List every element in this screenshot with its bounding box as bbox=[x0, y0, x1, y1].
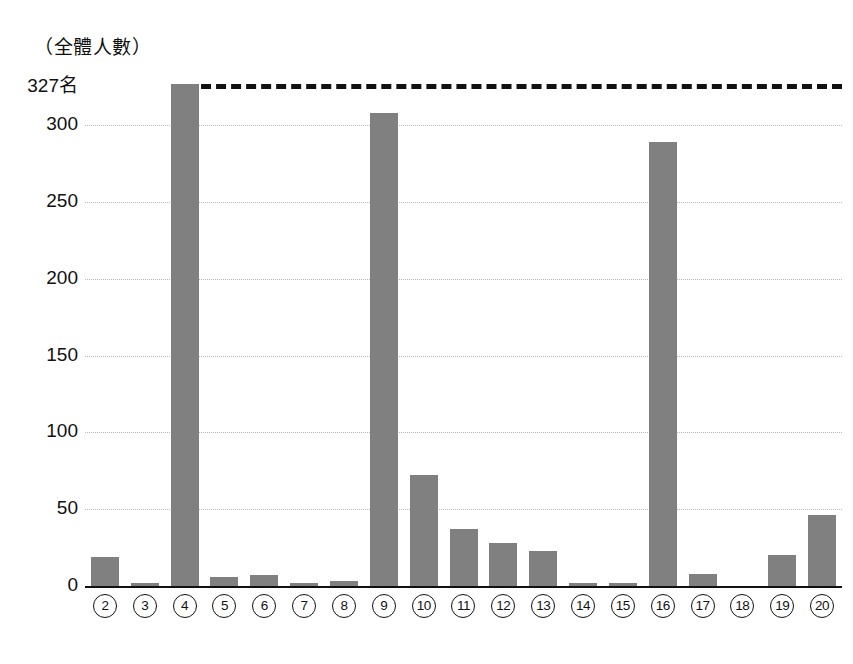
bar bbox=[489, 543, 517, 586]
x-tick-circled-number: 5 bbox=[212, 594, 236, 618]
x-tick-label: 9 bbox=[364, 594, 404, 618]
x-tick-label: 19 bbox=[762, 594, 802, 618]
x-tick-circled-number: 10 bbox=[412, 594, 436, 618]
bar bbox=[210, 577, 238, 586]
x-tick-circled-number: 20 bbox=[810, 594, 834, 618]
x-tick-label: 2 bbox=[85, 594, 125, 618]
x-tick-circled-number: 9 bbox=[372, 594, 396, 618]
x-tick-label: 8 bbox=[324, 594, 364, 618]
x-tick-label: 7 bbox=[284, 594, 324, 618]
x-tick-circled-number: 19 bbox=[770, 594, 794, 618]
x-tick-circled-number: 11 bbox=[451, 594, 475, 618]
y-tick-label: 100 bbox=[8, 420, 78, 442]
x-tick-circled-number: 3 bbox=[133, 594, 157, 618]
x-tick-circled-number: 7 bbox=[292, 594, 316, 618]
x-tick-label: 13 bbox=[523, 594, 563, 618]
bars-layer bbox=[85, 0, 842, 586]
y-tick-label: 0 bbox=[8, 574, 78, 596]
x-tick-label: 15 bbox=[603, 594, 643, 618]
bar bbox=[768, 555, 796, 586]
x-tick-circled-number: 15 bbox=[611, 594, 635, 618]
x-tick-circled-number: 4 bbox=[173, 594, 197, 618]
y-tick-label: 200 bbox=[8, 267, 78, 289]
x-tick-label: 14 bbox=[563, 594, 603, 618]
x-tick-circled-number: 12 bbox=[491, 594, 515, 618]
bar-chart: （全體人數） 050100150200250300 327名 234567891… bbox=[0, 0, 853, 664]
y-tick-label: 300 bbox=[8, 113, 78, 135]
x-axis-tick-labels: 234567891011121314151617181920 bbox=[85, 594, 842, 634]
x-tick-label: 3 bbox=[125, 594, 165, 618]
x-axis-line bbox=[85, 586, 842, 588]
x-tick-label: 11 bbox=[444, 594, 484, 618]
bar bbox=[250, 575, 278, 586]
x-tick-label: 16 bbox=[643, 594, 683, 618]
x-tick-circled-number: 17 bbox=[691, 594, 715, 618]
bar bbox=[370, 113, 398, 586]
x-tick-label: 17 bbox=[683, 594, 723, 618]
bar bbox=[91, 557, 119, 586]
y-tick-label: 250 bbox=[8, 190, 78, 212]
x-tick-label: 5 bbox=[205, 594, 245, 618]
bar bbox=[808, 515, 836, 586]
x-tick-circled-number: 16 bbox=[651, 594, 675, 618]
top-reference-label: 327名 bbox=[8, 70, 78, 97]
x-tick-label: 18 bbox=[722, 594, 762, 618]
x-tick-label: 12 bbox=[483, 594, 523, 618]
bar bbox=[171, 84, 199, 586]
bar bbox=[689, 574, 717, 586]
y-tick-label: 50 bbox=[8, 497, 78, 519]
bar bbox=[649, 142, 677, 586]
x-tick-circled-number: 14 bbox=[571, 594, 595, 618]
x-tick-circled-number: 18 bbox=[730, 594, 754, 618]
x-tick-label: 6 bbox=[244, 594, 284, 618]
bar bbox=[410, 475, 438, 586]
bar bbox=[529, 551, 557, 586]
x-tick-circled-number: 8 bbox=[332, 594, 356, 618]
x-tick-circled-number: 6 bbox=[252, 594, 276, 618]
x-tick-circled-number: 2 bbox=[93, 594, 117, 618]
x-tick-label: 4 bbox=[165, 594, 205, 618]
x-tick-label: 20 bbox=[802, 594, 842, 618]
x-tick-circled-number: 13 bbox=[531, 594, 555, 618]
y-tick-label: 150 bbox=[8, 344, 78, 366]
bar bbox=[450, 529, 478, 586]
x-tick-label: 10 bbox=[404, 594, 444, 618]
